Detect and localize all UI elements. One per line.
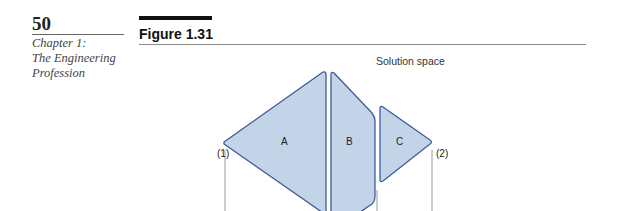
region-b-shape [331,72,375,211]
region-c-shape [380,106,432,181]
region-a-shape [224,72,326,211]
region-a-label: A [281,136,288,147]
solution-space-diagram [0,0,620,211]
point-2-label: (2) [436,148,448,159]
point-1-label: (1) [217,148,229,159]
region-c-label: C [396,136,403,147]
region-b-label: B [346,136,353,147]
